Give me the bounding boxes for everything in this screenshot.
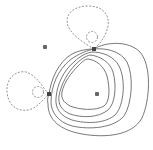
orbital-contour-plot bbox=[0, 0, 153, 150]
negative-contour-top-outer bbox=[67, 6, 108, 49]
atom-marker-top-left bbox=[43, 45, 47, 49]
atom-marker-center bbox=[95, 92, 99, 96]
atom-marker-left-bond bbox=[47, 92, 51, 96]
negative-lobe-top bbox=[67, 6, 108, 49]
negative-lobe-left bbox=[7, 72, 49, 111]
contour-4 bbox=[59, 55, 115, 117]
negative-contour-top-inner bbox=[87, 32, 98, 43]
negative-contour-left-outer bbox=[7, 72, 49, 111]
positive-contours bbox=[48, 43, 149, 135]
negative-contour-left-inner bbox=[33, 87, 44, 98]
atom-marker-top-bond bbox=[92, 47, 96, 51]
